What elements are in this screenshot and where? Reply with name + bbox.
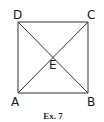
label-c: C <box>87 8 95 22</box>
label-e: E <box>49 58 57 72</box>
label-b: B <box>87 95 95 109</box>
geometry-diagram: D C A B E Ex. 7 <box>0 0 104 122</box>
label-a: A <box>11 95 20 109</box>
figure-caption: Ex. 7 <box>43 111 63 121</box>
label-d: D <box>13 8 22 22</box>
